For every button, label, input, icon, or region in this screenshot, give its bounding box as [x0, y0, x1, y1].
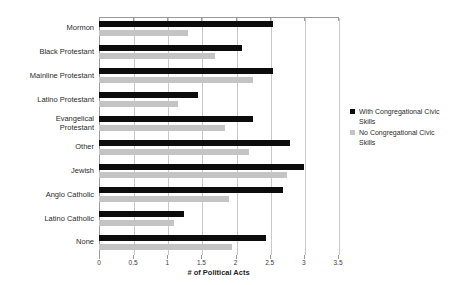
bar: [99, 211, 184, 217]
legend-item: With Congregational Civic Skills: [350, 107, 449, 126]
x-axis-tick-label: 2.5: [265, 259, 274, 266]
x-axis-tick-top: [338, 17, 339, 21]
bar: [99, 244, 232, 250]
x-axis-tick-label: 1: [165, 259, 169, 266]
category-label: None: [0, 237, 94, 247]
chart-row: [99, 41, 338, 65]
bar: [99, 101, 178, 107]
category-label: Anglo Catholic: [0, 190, 94, 200]
category-label: Latino Protestant: [0, 95, 94, 105]
chart-row: [99, 17, 338, 41]
bar: [99, 53, 215, 59]
x-axis-tick-label: 3.5: [333, 259, 342, 266]
category-label: Black Protestant: [0, 47, 94, 57]
category-label: Mormon: [0, 23, 94, 33]
bar: [99, 68, 273, 74]
bar: [99, 21, 273, 27]
legend-swatch-icon: [350, 109, 355, 114]
x-axis-tick-label: 2: [234, 259, 238, 266]
category-label: Latino Catholic: [0, 214, 94, 224]
legend-swatch-icon: [350, 130, 355, 135]
gridline: [339, 18, 340, 255]
chart-row: [99, 160, 338, 184]
bar: [99, 196, 229, 202]
legend-item: No Congregational Civic Skills: [350, 128, 449, 147]
legend-item-label: With Congregational Civic Skills: [359, 108, 440, 125]
bar: [99, 45, 242, 51]
bar-chart: 00.511.522.533.5 MormonBlack ProtestantM…: [0, 0, 449, 285]
chart-row: [99, 112, 338, 136]
legend-item-label: No Congregational Civic Skills: [359, 129, 434, 146]
chart-row: [99, 65, 338, 89]
bar: [99, 30, 188, 36]
chart-legend: With Congregational Civic Skills No Cong…: [350, 107, 449, 149]
chart-row: [99, 184, 338, 208]
category-label: Evangelical Protestant: [0, 114, 94, 133]
bar: [99, 92, 198, 98]
bar: [99, 116, 253, 122]
bar: [99, 140, 290, 146]
x-axis-tick-label: 3: [302, 259, 306, 266]
x-axis-tick-label: 1.5: [197, 259, 206, 266]
bar: [99, 77, 253, 83]
category-label: Mainline Protestant: [0, 71, 94, 81]
bar: [99, 187, 283, 193]
x-axis-tick-label: 0.5: [129, 259, 138, 266]
bar: [99, 220, 174, 226]
bar: [99, 125, 225, 131]
bar: [99, 235, 266, 241]
category-label: Jewish: [0, 166, 94, 176]
bar: [99, 172, 287, 178]
bar: [99, 164, 304, 170]
chart-row: [99, 88, 338, 112]
bar: [99, 149, 249, 155]
chart-row: [99, 207, 338, 231]
category-label: Other: [0, 142, 94, 152]
x-axis-title: # of Political Acts: [99, 268, 338, 277]
x-axis-tick-label: 0: [97, 259, 101, 266]
chart-row: [99, 136, 338, 160]
chart-row: [99, 231, 338, 255]
